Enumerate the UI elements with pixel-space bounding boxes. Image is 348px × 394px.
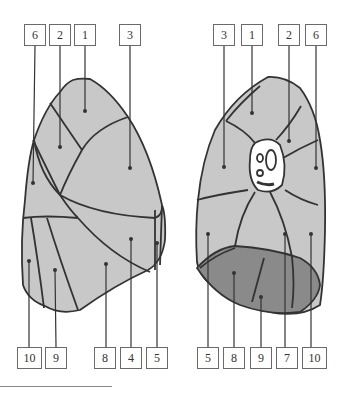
label-left-top-2: 2 <box>49 24 71 46</box>
hilum <box>250 139 285 191</box>
label-right-top-3: 2 <box>278 24 300 46</box>
label-left-bottom-5: 5 <box>146 347 168 369</box>
left-lung-outline <box>22 79 165 312</box>
label-right-top-4: 6 <box>305 24 327 46</box>
diagram-canvas <box>0 0 348 394</box>
label-right-bottom-1: 5 <box>197 347 219 369</box>
label-left-bottom-2: 9 <box>45 347 67 369</box>
label-left-top-1: 6 <box>24 24 46 46</box>
label-right-bottom-2: 8 <box>223 347 245 369</box>
label-left-top-4: 3 <box>119 24 141 46</box>
label-left-bottom-1: 10 <box>17 347 42 369</box>
label-right-top-1: 3 <box>213 24 235 46</box>
label-right-bottom-3: 9 <box>250 347 272 369</box>
label-left-bottom-3: 8 <box>94 347 116 369</box>
label-right-bottom-5: 10 <box>302 347 327 369</box>
label-left-bottom-4: 4 <box>120 347 142 369</box>
left-lung-view <box>22 79 165 312</box>
label-right-bottom-4: 7 <box>276 347 298 369</box>
footnote-rule <box>0 386 112 387</box>
label-left-top-3: 1 <box>74 24 96 46</box>
label-right-top-2: 1 <box>241 24 263 46</box>
